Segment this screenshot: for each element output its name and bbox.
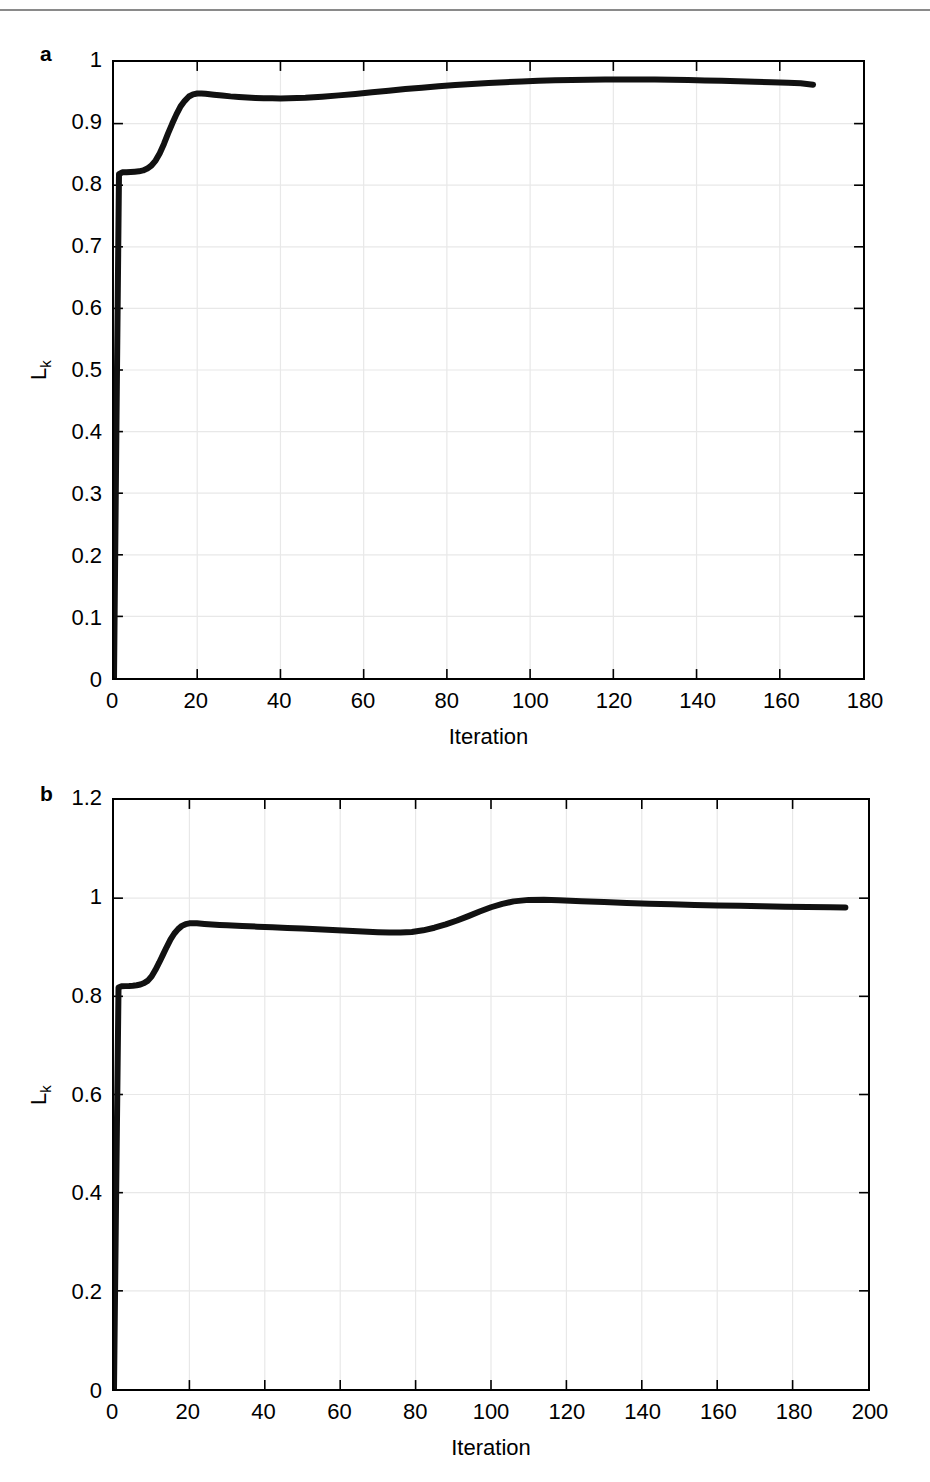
y-tick-label: 0.6 [71, 295, 102, 321]
x-tick-label: 0 [106, 1399, 118, 1425]
x-tick-label: 180 [847, 688, 884, 714]
y-tick-label: 0 [90, 667, 102, 693]
y-tick-label: 0.3 [71, 481, 102, 507]
x-tick-label: 100 [512, 688, 549, 714]
y-tick-label: 0.2 [71, 1279, 102, 1305]
y-tick-label: 0.1 [71, 605, 102, 631]
x-tick-label: 200 [852, 1399, 889, 1425]
grid-lines [114, 62, 863, 678]
y-tick-label: 0.9 [71, 109, 102, 135]
y-tick-label: 0.5 [71, 357, 102, 383]
data-line-lk [114, 900, 845, 1389]
x-tick-label: 160 [763, 688, 800, 714]
y-tick-label: 0.7 [71, 233, 102, 259]
x-tick-label: 20 [176, 1399, 200, 1425]
data-line-lk [114, 79, 813, 678]
panel-b-chart-svg [114, 800, 868, 1389]
panel-b-letter: b [40, 782, 53, 806]
panel-a-y-axis-title: Lk [26, 350, 54, 390]
y-tick-label: 1 [90, 884, 102, 910]
y-tick-label: 0.2 [71, 543, 102, 569]
panel-b-y-axis-title: Lk [26, 1075, 54, 1115]
panel-a-y-axis-title-main: L [26, 368, 51, 380]
y-tick-label: 1.2 [71, 785, 102, 811]
figure-panel-a: a 00.10.20.30.40.50.60.70.80.91 02040608… [0, 28, 930, 728]
x-tick-label: 40 [251, 1399, 275, 1425]
x-tick-label: 40 [267, 688, 291, 714]
x-tick-label: 0 [106, 688, 118, 714]
panel-b-plot-area [112, 798, 870, 1391]
x-tick-label: 80 [434, 688, 458, 714]
x-tick-label: 140 [679, 688, 716, 714]
panel-a-letter: a [40, 42, 52, 66]
y-tick-label: 0 [90, 1378, 102, 1404]
panel-b-y-axis-title-main: L [26, 1092, 51, 1104]
y-tick-label: 0.8 [71, 171, 102, 197]
grid-lines [114, 800, 868, 1389]
panel-b-y-axis-title-subscript: k [37, 1085, 54, 1093]
y-tick-label: 0.8 [71, 983, 102, 1009]
panel-a-plot-area [112, 60, 865, 680]
x-tick-label: 80 [403, 1399, 427, 1425]
y-tick-label: 0.4 [71, 1180, 102, 1206]
x-tick-label: 180 [776, 1399, 813, 1425]
x-tick-label: 160 [700, 1399, 737, 1425]
y-tick-label: 1 [90, 47, 102, 73]
header-rule [0, 9, 930, 11]
panel-b-x-axis-title: Iteration [451, 1435, 531, 1461]
x-tick-label: 60 [351, 688, 375, 714]
y-tick-label: 0.4 [71, 419, 102, 445]
y-tick-label: 0.6 [71, 1082, 102, 1108]
panel-a-x-axis-title: Iteration [449, 724, 529, 750]
x-tick-label: 60 [327, 1399, 351, 1425]
x-tick-label: 20 [183, 688, 207, 714]
x-tick-label: 140 [624, 1399, 661, 1425]
panel-a-y-axis-title-subscript: k [37, 360, 54, 368]
x-tick-label: 120 [596, 688, 633, 714]
x-tick-label: 100 [473, 1399, 510, 1425]
x-tick-label: 120 [548, 1399, 585, 1425]
panel-a-chart-svg [114, 62, 863, 678]
figure-panel-b: b 00.20.40.60.811.2 02040608010012014016… [0, 760, 930, 1470]
